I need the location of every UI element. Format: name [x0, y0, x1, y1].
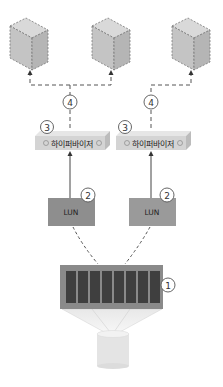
- server-tower-icon: [172, 18, 210, 70]
- hypervisor-right: 하이퍼바이저: [116, 131, 191, 150]
- svg-text:LUN: LUN: [145, 208, 160, 217]
- lun-to-array-links: [73, 227, 150, 264]
- svg-text:4: 4: [148, 98, 154, 108]
- svg-text:1: 1: [165, 281, 171, 291]
- marker-2-right: 2: [160, 188, 174, 202]
- hypervisor-label: 하이퍼바이저: [51, 139, 93, 149]
- server-tower-icon: [10, 18, 48, 70]
- database-cylinder-icon: [97, 331, 129, 370]
- marker-2-left: 2: [81, 188, 95, 202]
- marker-4-right: 4: [144, 95, 158, 109]
- lun-right: LUN: [129, 198, 176, 226]
- network-connections: [30, 72, 191, 140]
- svg-text:LUN: LUN: [64, 208, 79, 217]
- svg-text:3: 3: [122, 123, 128, 133]
- server-2: [92, 18, 130, 70]
- svg-text:4: 4: [67, 98, 73, 108]
- projection-beam: [62, 309, 162, 333]
- storage-array: [60, 265, 163, 309]
- marker-4-left: 4: [63, 95, 77, 109]
- server-3: [172, 18, 210, 70]
- virtualization-storage-diagram: 4 4 하이퍼바이저 3 하이퍼바이저 3: [0, 0, 223, 387]
- marker-3-right: 3: [119, 121, 132, 134]
- svg-text:3: 3: [44, 123, 50, 133]
- svg-text:2: 2: [164, 191, 170, 201]
- server-tower-icon: [92, 18, 130, 70]
- arrowheads-up: [68, 151, 154, 156]
- server-1: [10, 18, 48, 70]
- svg-text:2: 2: [85, 191, 91, 201]
- marker-1: 1: [161, 278, 175, 292]
- hypervisor-label: 하이퍼바이저: [132, 139, 174, 149]
- marker-3-left: 3: [41, 121, 54, 134]
- arrowheads-up: [28, 70, 194, 75]
